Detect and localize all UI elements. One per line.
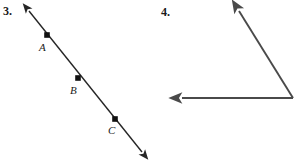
- upper-diagonal-ray: [239, 11, 293, 98]
- point-label-c: C: [108, 125, 115, 136]
- point-label-a: A: [39, 42, 46, 53]
- figure-4: 4.: [152, 0, 294, 163]
- point-marker-A: [44, 32, 50, 38]
- point-marker-B: [75, 75, 81, 81]
- figure-4-drawing: [152, 0, 294, 163]
- figure-3-drawing: [0, 0, 152, 163]
- point-label-b: B: [70, 85, 77, 96]
- line-ABC: [29, 11, 142, 152]
- figure-3: 3. A B C: [0, 0, 152, 163]
- worksheet-canvas: 3. A B C 4.: [0, 0, 294, 163]
- point-marker-C: [112, 116, 118, 122]
